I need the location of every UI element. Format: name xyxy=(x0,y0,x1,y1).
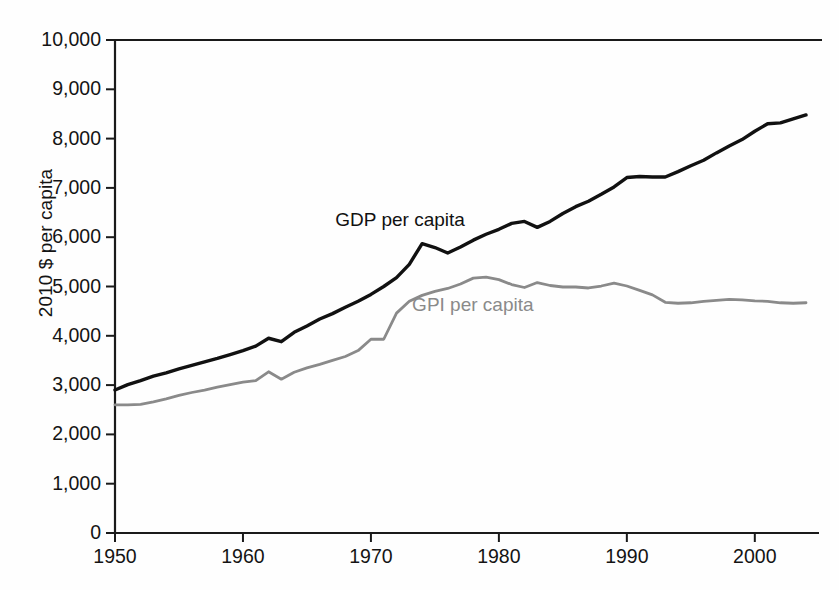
y-axis-tick-label: 10,000 xyxy=(4,30,101,50)
series-label-gpi: GPI per capita xyxy=(412,295,533,314)
y-axis-tick-label: 9,000 xyxy=(4,79,101,99)
x-axis-tick-label: 2000 xyxy=(710,547,800,567)
y-axis-tick-label: 8,000 xyxy=(4,129,101,149)
series-line-gdp xyxy=(115,115,806,390)
series-lines xyxy=(115,115,806,405)
x-axis-tick-label: 1990 xyxy=(582,547,672,567)
y-axis-tick-label: 3,000 xyxy=(4,375,101,395)
y-axis-tick-label: 1,000 xyxy=(4,474,101,494)
x-axis-tick-label: 1970 xyxy=(326,547,416,567)
chart-figure: 2010 $ per capita 01,0002,0003,0004,0005… xyxy=(0,0,839,590)
y-axis-ticks xyxy=(106,40,115,533)
x-axis-tick-label: 1980 xyxy=(454,547,544,567)
x-axis-tick-label: 1960 xyxy=(198,547,288,567)
x-axis-ticks xyxy=(115,533,755,542)
y-axis-tick-label: 7,000 xyxy=(4,178,101,198)
y-axis-tick-label: 5,000 xyxy=(4,277,101,297)
y-axis-tick-label: 0 xyxy=(4,523,101,543)
axis-lines xyxy=(115,40,822,533)
y-axis-tick-label: 4,000 xyxy=(4,326,101,346)
series-label-gdp: GDP per capita xyxy=(335,210,465,229)
y-axis-tick-label: 6,000 xyxy=(4,227,101,247)
y-axis-tick-label: 2,000 xyxy=(4,424,101,444)
x-axis-tick-label: 1950 xyxy=(70,547,160,567)
